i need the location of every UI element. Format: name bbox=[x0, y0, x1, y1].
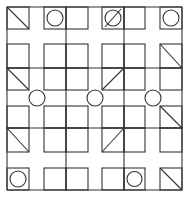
square-cell bbox=[102, 128, 124, 152]
square-cell bbox=[124, 68, 145, 90]
circle-icon bbox=[10, 171, 26, 187]
square-cell bbox=[66, 168, 88, 190]
center-circles bbox=[29, 90, 161, 106]
diagonal-down-icon bbox=[7, 68, 29, 90]
square-outline bbox=[124, 7, 145, 29]
diagonal-down-icon bbox=[7, 7, 29, 29]
square-cell bbox=[66, 68, 88, 90]
square-outline bbox=[66, 128, 88, 152]
square-cell bbox=[160, 106, 182, 128]
square-outline bbox=[66, 68, 88, 90]
square-cell bbox=[44, 7, 66, 29]
square-cell bbox=[160, 68, 182, 90]
square-cell bbox=[44, 44, 66, 68]
square-cell bbox=[44, 106, 66, 128]
center-circle-icon bbox=[145, 90, 161, 106]
square-cell bbox=[102, 68, 124, 90]
diagonal-down-icon bbox=[160, 168, 182, 190]
square-cell bbox=[66, 7, 88, 29]
square-outline bbox=[124, 68, 145, 90]
square-cell bbox=[66, 106, 88, 128]
square-cell bbox=[124, 168, 145, 190]
square-outline bbox=[44, 68, 66, 90]
square-outline bbox=[66, 7, 88, 29]
square-cell bbox=[44, 128, 66, 152]
square-cell bbox=[66, 128, 88, 152]
circle-icon bbox=[47, 10, 63, 26]
square-cell bbox=[7, 68, 29, 90]
square-cell bbox=[102, 44, 124, 68]
diagonal-up-icon bbox=[102, 128, 124, 152]
diagonal-down-icon bbox=[160, 106, 182, 128]
square-outline bbox=[44, 106, 66, 128]
square-cell bbox=[66, 44, 88, 68]
square-outline bbox=[44, 44, 66, 68]
diagonal-up-icon bbox=[102, 68, 124, 90]
square-outline bbox=[7, 44, 29, 68]
diagonal-down-icon bbox=[160, 44, 182, 68]
square-outline bbox=[124, 128, 145, 152]
square-outline bbox=[102, 168, 124, 190]
square-cell bbox=[102, 106, 124, 128]
square-cell bbox=[7, 44, 29, 68]
square-outline bbox=[102, 106, 124, 128]
square-cell bbox=[124, 44, 145, 68]
square-outline bbox=[124, 44, 145, 68]
puzzle-figure bbox=[0, 0, 187, 198]
square-cell bbox=[7, 106, 29, 128]
square-cell bbox=[160, 128, 182, 152]
square-outline bbox=[66, 106, 88, 128]
square-outline bbox=[44, 128, 66, 152]
square-outline bbox=[44, 168, 66, 190]
diagonal-down-icon bbox=[7, 128, 29, 152]
square-outline bbox=[66, 168, 88, 190]
square-cell bbox=[160, 44, 182, 68]
square-outline bbox=[160, 128, 182, 152]
square-outline bbox=[124, 106, 145, 128]
square-outline bbox=[66, 44, 88, 68]
square-outline bbox=[7, 106, 29, 128]
square-cell bbox=[7, 168, 29, 190]
square-cell bbox=[7, 7, 29, 29]
square-cell bbox=[102, 7, 124, 29]
square-outline bbox=[160, 68, 182, 90]
square-cell bbox=[44, 68, 66, 90]
square-cell bbox=[44, 168, 66, 190]
square-cell bbox=[160, 7, 182, 29]
square-cell bbox=[7, 128, 29, 152]
square-cell bbox=[124, 128, 145, 152]
square-cell bbox=[102, 168, 124, 190]
circle-icon bbox=[163, 10, 179, 26]
square-cell bbox=[124, 106, 145, 128]
center-circle-icon bbox=[87, 90, 103, 106]
square-cell bbox=[160, 168, 182, 190]
center-circle-icon bbox=[29, 90, 45, 106]
square-cell bbox=[124, 7, 145, 29]
square-outline bbox=[102, 44, 124, 68]
circle-icon bbox=[127, 172, 142, 187]
